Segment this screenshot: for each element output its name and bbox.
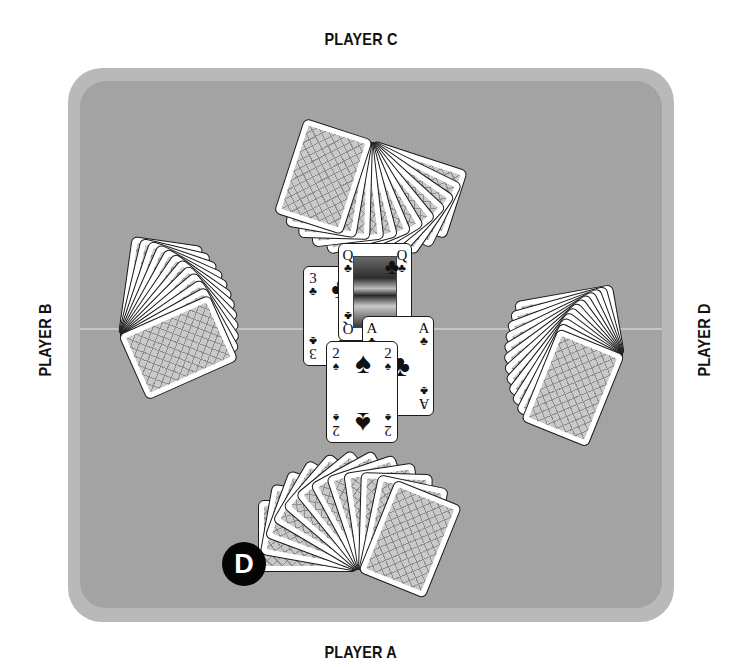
dealer-button: D [222, 542, 266, 586]
card-index: A♣ [418, 321, 430, 347]
card-index: 2♠ [330, 346, 342, 372]
trick-card-2-spades: 2♠ 2♠ 2♠ 2♠ ♠ ♠ [326, 341, 398, 443]
spade-pip-icon: ♠ [348, 348, 378, 378]
card-index: 3♣ [307, 335, 319, 361]
card-index: 2♠ [330, 412, 342, 438]
card-index: 2♠ [382, 412, 394, 438]
spade-pip-icon: ♠ [348, 408, 378, 438]
club-pip-icon: ♣ [377, 252, 407, 282]
card-index: Q♣ [342, 248, 354, 274]
card-index: A♣ [418, 385, 430, 411]
card-index: 3♣ [307, 271, 319, 297]
card-index: Q♣ [342, 310, 354, 336]
card-index: 2♠ [382, 346, 394, 372]
